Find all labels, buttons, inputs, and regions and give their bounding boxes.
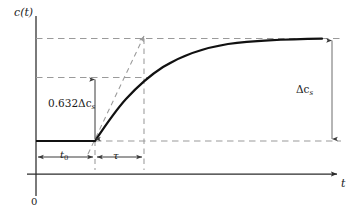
initial-tangent-dashed-line xyxy=(88,36,144,154)
response-curve xyxy=(95,39,322,141)
delta-cs-label: Δcs xyxy=(296,84,313,96)
origin-label: 0 xyxy=(31,197,37,207)
dead-time-subscript: 0 xyxy=(64,154,68,162)
x-axis-label: t xyxy=(341,178,345,189)
delta-cs-subscript: s xyxy=(309,88,313,97)
time-constant-label: τ xyxy=(113,151,119,161)
sixty-three-percent-label: 0.632Δcs xyxy=(48,98,95,110)
delta-cs-symbol: Δc xyxy=(296,83,309,95)
y-axis-label: c(t) xyxy=(14,7,33,18)
sixty-three-percent-value: 0.632Δc xyxy=(48,97,92,109)
sixty-three-percent-subscript: s xyxy=(92,102,96,111)
chart-canvas xyxy=(0,0,360,221)
step-response-figure: c(t) 0 t t0 τ 0.632Δcs Δcs xyxy=(0,0,360,221)
dead-time-label: t0 xyxy=(60,150,68,162)
